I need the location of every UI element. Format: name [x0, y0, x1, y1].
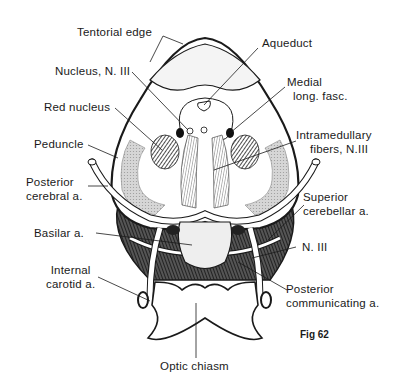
label-superior-cerebellar: Superior cerebellar a. — [303, 190, 369, 218]
basilar-artery — [178, 222, 231, 269]
label-intramedullary-fibers: Intramedullary fibers, N.III — [296, 128, 372, 156]
label-n3: N. III — [302, 241, 327, 254]
label-posterior-communicating: Posterior communicating a. — [286, 282, 379, 310]
label-basilar: Basilar a. — [34, 227, 84, 240]
internal-carotid-left — [138, 292, 148, 308]
label-tentorial-edge: Tentorial edge — [77, 26, 152, 39]
internal-carotid-right — [261, 292, 271, 308]
label-peduncle: Peduncle — [34, 138, 84, 151]
label-aqueduct: Aqueduct — [262, 37, 312, 50]
red-nucleus-left — [151, 135, 179, 169]
label-internal-carotid: Internal carotid a. — [46, 263, 95, 291]
red-nucleus-right — [231, 135, 259, 169]
label-posterior-cerebral: Posterior cerebral a. — [26, 175, 83, 203]
label-red-nucleus: Red nucleus — [44, 101, 110, 114]
tentorial-edge — [150, 44, 260, 90]
figure-caption: Fig 62 — [300, 329, 329, 340]
label-medial-long-fasc: Medial long. fasc. — [287, 75, 348, 103]
optic-chiasm — [148, 282, 262, 339]
label-optic-chiasm: Optic chiasm — [160, 360, 229, 373]
label-nucleus-n3: Nucleus, N. III — [55, 65, 130, 78]
